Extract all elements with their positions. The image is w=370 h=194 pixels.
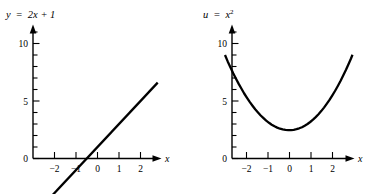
chart-title-linear: y = 2x + 1 — [5, 9, 55, 20]
chart-panel-parabola: u = x2 x — [185, 0, 370, 194]
y-ticklabel-5-parabola: 5 — [222, 97, 227, 107]
x-ticklabel-1-linear: 1 — [117, 164, 122, 174]
chart-title-parabola: u = x2 — [203, 8, 234, 20]
y-ticklabel-10-parabola: 10 — [218, 39, 228, 49]
y-ticklabel-10-linear: 10 — [19, 39, 29, 49]
x-axis-label-linear: x — [164, 153, 170, 164]
data-line-linear — [50, 83, 158, 194]
x-axis-arrow-icon-linear — [153, 155, 162, 162]
title-equals-parabola: = — [214, 9, 220, 20]
x-ticklabel-2-linear: 2 — [138, 164, 143, 174]
chart-panel-linear: y = 2x + 1 x — [0, 0, 185, 194]
title-rhs-linear: 2x + 1 — [28, 9, 56, 20]
data-curve-parabola — [225, 55, 353, 130]
y-ticklabel-0-parabola: 0 — [222, 154, 227, 164]
x-ticks-linear — [55, 152, 141, 159]
y-major-ticks-linear — [33, 44, 40, 159]
x-axis-label-parabola: x — [357, 153, 363, 164]
x-ticklabel-1-parabola: 1 — [309, 164, 314, 174]
figure-two-graphs: y = 2x + 1 x — [0, 0, 370, 194]
title-exponent-parabola: 2 — [230, 8, 234, 16]
y-major-ticks-parabola — [232, 44, 239, 159]
x-ticklabel-neg1-parabola: −1 — [263, 164, 273, 174]
x-ticklabel-0-linear: 0 — [95, 164, 100, 174]
x-axis-arrow-icon-parabola — [346, 155, 355, 162]
x-ticklabel-0-parabola: 0 — [287, 164, 292, 174]
x-ticklabel-neg2-linear: −2 — [49, 164, 59, 174]
x-ticks-parabola — [247, 152, 333, 159]
title-lhs-linear: y — [5, 9, 11, 20]
title-lhs-parabola: u — [203, 9, 208, 20]
y-ticklabel-0-linear: 0 — [23, 154, 28, 164]
title-equals-linear: = — [16, 9, 22, 20]
x-ticklabel-2-parabola: 2 — [330, 164, 335, 174]
y-ticklabel-5-linear: 5 — [23, 97, 28, 107]
x-ticklabel-neg2-parabola: −2 — [241, 164, 251, 174]
